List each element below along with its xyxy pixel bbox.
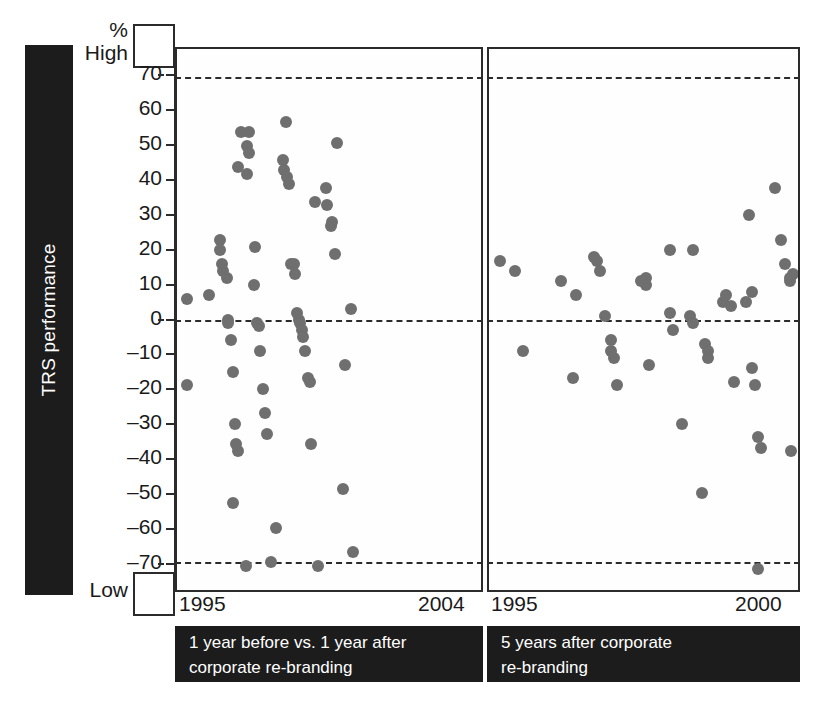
scatter-point [232,445,244,457]
scatter-point [241,168,253,180]
low-label: Low [58,578,128,602]
scatter-point [259,407,271,419]
scatter-point [243,147,255,159]
scatter-point [696,487,708,499]
scatter-point [305,438,317,450]
scatter-point [297,331,309,343]
scatter-point [270,522,282,534]
scatter-point [337,483,349,495]
y-axis-title-bar: TRS performance [25,45,73,595]
scatter-point [254,345,266,357]
scatter-point [214,244,226,256]
scatter-point [749,379,761,391]
caption-left-line1: 1 year before vs. 1 year after [189,633,406,652]
y-axis-tick-label: 60 [104,96,162,120]
y-axis-tick-label: 40 [104,166,162,190]
panel-left-plot [175,47,483,592]
scatter-point [785,445,797,457]
y-axis-tick-label: –10 [104,340,162,364]
y-axis-tick-label: 50 [104,131,162,155]
scatter-point [181,379,193,391]
x-axis-label-right-start: 1995 [491,592,538,616]
scatter-point [347,546,359,558]
scatter-point [702,352,714,364]
scatter-point [643,359,655,371]
percent-unit-label: % [78,18,128,42]
scatter-point [320,182,332,194]
scatter-point [746,286,758,298]
y-axis-tick-label: 30 [104,201,162,225]
scatter-point [743,209,755,221]
caption-left: 1 year before vs. 1 year after corporate… [175,626,483,682]
scatter-point [240,560,252,572]
caption-right-line2: re-branding [501,655,800,680]
scatter-point [253,320,265,332]
caption-right-line1: 5 years after corporate [501,633,672,652]
scatter-point [181,293,193,305]
chart-figure: TRS performance % High Low 7060504030201… [0,0,827,713]
scatter-point [257,383,269,395]
scatter-point [203,289,215,301]
scatter-point [222,317,234,329]
scatter-point [345,303,357,315]
scatter-point [687,244,699,256]
scatter-point [608,352,620,364]
scatter-point [752,563,764,575]
scatter-point [221,272,233,284]
panel-right-plot [487,47,800,592]
scatter-point [329,248,341,260]
x-axis-label-right-end: 2000 [735,592,782,616]
scatter-point [265,556,277,568]
scatter-point [746,362,758,374]
x-axis-label-left-end: 2004 [418,592,465,616]
y-axis-title-text: TRS performance [38,244,60,397]
scatter-point [740,296,752,308]
caption-left-line2: corporate re-branding [189,655,483,680]
scatter-point [283,178,295,190]
scatter-point [787,268,799,280]
y-axis-tick-label: –60 [104,515,162,539]
caption-right: 5 years after corporate re-branding [487,626,800,682]
scatter-point [517,345,529,357]
scatter-point [331,137,343,149]
scatter-point [555,275,567,287]
scatter-point [229,418,241,430]
reference-line [487,77,800,79]
scatter-point [225,334,237,346]
scatter-point [280,116,292,128]
scatter-point [299,345,311,357]
reference-line [175,562,483,564]
reference-line [487,320,800,322]
scatter-point [509,265,521,277]
y-axis-tick-label: 0 [104,306,162,330]
scatter-point [304,376,316,388]
reference-line [175,77,483,79]
scatter-point [611,379,623,391]
scatter-point [261,428,273,440]
y-axis-tick-label: –40 [104,445,162,469]
scatter-point [227,366,239,378]
scatter-point [725,300,737,312]
scatter-point [676,418,688,430]
scatter-point [248,279,260,291]
scatter-point [567,372,579,384]
scatter-point [309,196,321,208]
scatter-point [494,255,506,267]
scatter-point [664,307,676,319]
scatter-point [227,497,239,509]
scatter-point [775,234,787,246]
scatter-point [594,265,606,277]
scatter-point [570,289,582,301]
y-axis-tick-label: –30 [104,410,162,434]
scatter-point [664,244,676,256]
scatter-point [249,241,261,253]
scatter-point [312,560,324,572]
y-axis-tick-label: –50 [104,480,162,504]
scatter-point [321,199,333,211]
y-axis-tick-label: –20 [104,375,162,399]
y-axis-tick-label: 20 [104,236,162,260]
x-axis-label-left-start: 1995 [179,592,226,616]
y-axis-tick-label: –70 [104,550,162,574]
scatter-point [687,317,699,329]
scatter-point [667,324,679,336]
